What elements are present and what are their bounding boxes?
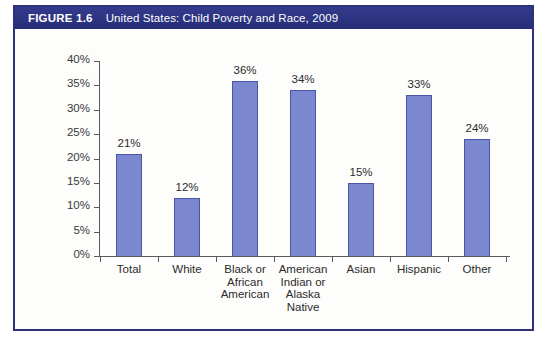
figure-panel: FIGURE 1.6 United States: Child Poverty … <box>13 5 534 331</box>
bar-value-label: 12% <box>157 181 217 193</box>
y-tick-mark <box>94 85 99 86</box>
category-label-line: American <box>272 263 334 276</box>
bar-value-label: 21% <box>99 137 159 149</box>
x-tick-mark <box>216 257 217 262</box>
bar-value-label: 15% <box>331 166 391 178</box>
category-label-line: American <box>214 288 276 301</box>
bar <box>232 81 258 257</box>
category-label-line: Other <box>446 263 508 276</box>
plot-area <box>100 61 510 256</box>
y-tick-mark <box>94 159 99 160</box>
chart-canvas: 0%5%10%15%20%25%30%35%40% TotalWhiteBlac… <box>15 29 532 329</box>
x-tick-mark <box>506 257 507 262</box>
category-label-line: African <box>214 276 276 289</box>
category-label-line: White <box>156 263 218 276</box>
figure-number: FIGURE 1.6 <box>28 12 93 24</box>
x-tick-mark <box>158 257 159 262</box>
category-label: AmericanIndian orAlaskaNative <box>272 263 334 313</box>
category-label-line: Hispanic <box>388 263 450 276</box>
y-tick-label: 10% <box>67 199 90 211</box>
category-label-line: Alaska <box>272 288 334 301</box>
y-tick-mark <box>94 207 99 208</box>
category-label: Black orAfricanAmerican <box>214 263 276 301</box>
y-tick-mark <box>94 61 99 62</box>
bar <box>290 90 316 256</box>
bar <box>406 95 432 256</box>
x-tick-mark <box>274 257 275 262</box>
bar-value-label: 34% <box>273 73 333 85</box>
bar-value-label: 33% <box>389 78 449 90</box>
bar <box>464 139 490 256</box>
category-label: Total <box>98 263 160 276</box>
x-tick-mark <box>100 257 101 262</box>
bar <box>348 183 374 256</box>
bar-value-label: 24% <box>447 122 507 134</box>
y-tick-mark <box>94 183 99 184</box>
category-label: Asian <box>330 263 392 276</box>
category-label: White <box>156 263 218 276</box>
y-tick-label: 35% <box>67 77 90 89</box>
y-tick-label: 5% <box>73 224 90 236</box>
y-tick-label: 40% <box>67 53 90 65</box>
y-tick-mark <box>94 110 99 111</box>
y-tick-label: 20% <box>67 151 90 163</box>
figure-title: United States: Child Poverty and Race, 2… <box>106 12 339 24</box>
x-tick-mark <box>448 257 449 262</box>
y-tick-label: 0% <box>73 248 90 260</box>
y-tick-mark <box>94 232 99 233</box>
category-label-line: Native <box>272 301 334 314</box>
bar-value-label: 36% <box>215 64 275 76</box>
y-tick-mark <box>94 256 99 257</box>
category-label-line: Indian or <box>272 276 334 289</box>
y-tick-label: 25% <box>67 126 90 138</box>
category-label-line: Asian <box>330 263 392 276</box>
y-tick-mark <box>94 134 99 135</box>
category-label-line: Total <box>98 263 160 276</box>
x-tick-mark <box>332 257 333 262</box>
bar <box>174 198 200 257</box>
y-tick-label: 30% <box>67 102 90 114</box>
figure-header-bar: FIGURE 1.6 United States: Child Poverty … <box>15 7 532 29</box>
x-tick-mark <box>390 257 391 262</box>
category-label-line: Black or <box>214 263 276 276</box>
category-label: Other <box>446 263 508 276</box>
category-label: Hispanic <box>388 263 450 276</box>
y-tick-label: 15% <box>67 175 90 187</box>
bar <box>116 154 142 256</box>
